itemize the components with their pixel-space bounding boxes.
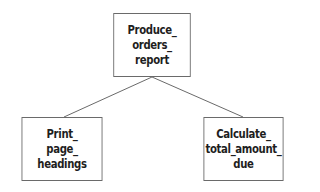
node-label: Calculate_ total_amount_ due [205,127,281,172]
edge-root-to-print-page-headings [64,77,152,117]
node-label: Print_ page_ headings [37,127,86,172]
node-print-page-headings: Print_ page_ headings [22,117,103,181]
edge-root-to-calculate-total-amount-due [152,77,243,117]
node-label: Produce_ orders_ report [128,23,177,68]
node-produce-orders-report: Produce_ orders_ report [113,13,190,77]
node-calculate-total-amount-due: Calculate_ total_amount_ due [203,117,283,181]
